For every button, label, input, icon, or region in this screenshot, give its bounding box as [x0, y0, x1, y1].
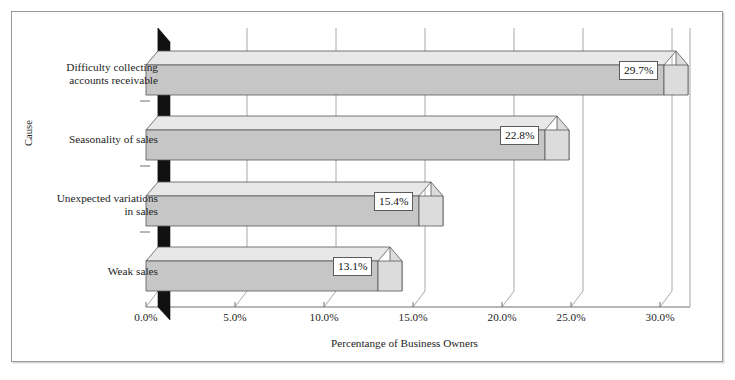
category-label-difficulty-collecting-accounts-receivable: Difficulty collecting accounts receivabl…: [18, 61, 158, 88]
y-axis-title: Cause: [23, 120, 34, 146]
data-label-unexpected-variations-in-sales: 15.4%: [374, 192, 413, 211]
chart-figure: Difficulty collecting accounts receivabl…: [0, 0, 735, 380]
category-label-weak-sales: Weak sales: [18, 265, 158, 278]
category-label-seasonality-of-sales: Seasonality of sales: [18, 133, 158, 146]
x-tick-label-0: 0.0%: [111, 311, 181, 323]
x-axis-title: Percentange of Business Owners: [331, 337, 478, 349]
x-tick-label-2: 10.0%: [289, 311, 359, 323]
category-label-unexpected-variations-in-sales: Unexpected variations in sales: [18, 192, 158, 219]
x-tick-label-4: 20.0%: [467, 311, 537, 323]
x-tick-label-1: 5.0%: [200, 311, 270, 323]
data-label-seasonality-of-sales: 22.8%: [500, 126, 539, 145]
x-tick-label-6: 30.0%: [625, 311, 695, 323]
data-label-difficulty-collecting-accounts-receivable: 29.7%: [619, 61, 658, 80]
x-tick-label-3: 15.0%: [378, 311, 448, 323]
data-label-weak-sales: 13.1%: [333, 257, 372, 276]
x-axis-title-wrap: Percentange of Business Owners: [0, 337, 735, 349]
x-tick-label-5: 25.0%: [536, 311, 606, 323]
